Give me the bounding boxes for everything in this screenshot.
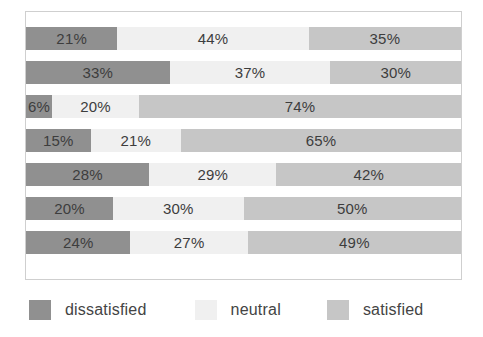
bar-segment-satisfied: 49% [248, 231, 461, 254]
bar-segment-label: 49% [339, 234, 370, 251]
chart-legend: dissatisfiedneutralsatisfied [25, 295, 462, 325]
bar-segment-dissatisfied: 24% [26, 231, 130, 254]
bar-segment-dissatisfied: 6% [26, 95, 52, 118]
bar-segment-label: 42% [353, 166, 384, 183]
bar-row: 15%21%65% [26, 129, 461, 152]
bar-segment-dissatisfied: 21% [26, 27, 117, 50]
bars-area: 21%44%35%33%37%30%6%20%74%15%21%65%28%29… [26, 27, 461, 266]
bar-segment-label: 21% [56, 30, 87, 47]
bar-segment-satisfied: 74% [139, 95, 461, 118]
bar-row: 21%44%35% [26, 27, 461, 50]
bar-segment-label: 20% [80, 98, 111, 115]
legend-item-neutral[interactable]: neutral [195, 300, 281, 320]
bar-segment-satisfied: 35% [309, 27, 461, 50]
bar-segment-label: 50% [337, 200, 368, 217]
legend-label: neutral [231, 301, 281, 319]
legend-label: dissatisfied [65, 301, 147, 319]
bar-segment-label: 65% [306, 132, 337, 149]
bar-segment-label: 6% [28, 98, 50, 115]
bar-segment-label: 29% [197, 166, 228, 183]
legend-item-satisfied[interactable]: satisfied [327, 300, 424, 320]
bar-row: 33%37%30% [26, 61, 461, 84]
bar-row: 20%30%50% [26, 197, 461, 220]
bar-segment-label: 21% [121, 132, 152, 149]
bar-segment-neutral: 20% [52, 95, 139, 118]
legend-label: satisfied [363, 301, 424, 319]
bar-segment-satisfied: 50% [244, 197, 462, 220]
bar-segment-dissatisfied: 33% [26, 61, 170, 84]
bar-segment-dissatisfied: 15% [26, 129, 91, 152]
bar-segment-label: 15% [43, 132, 74, 149]
bar-row: 24%27%49% [26, 231, 461, 254]
bar-segment-neutral: 44% [117, 27, 308, 50]
bar-segment-label: 28% [72, 166, 103, 183]
legend-swatch-satisfied [327, 300, 349, 320]
bar-segment-neutral: 29% [149, 163, 276, 186]
bar-segment-satisfied: 42% [276, 163, 461, 186]
stacked-bar-chart: 21%44%35%33%37%30%6%20%74%15%21%65%28%29… [0, 0, 483, 337]
bar-segment-label: 44% [198, 30, 229, 47]
bar-row: 28%29%42% [26, 163, 461, 186]
bar-segment-label: 24% [63, 234, 94, 251]
bar-segment-neutral: 37% [170, 61, 331, 84]
bar-segment-dissatisfied: 20% [26, 197, 113, 220]
bar-segment-neutral: 21% [91, 129, 181, 152]
bar-segment-label: 35% [370, 30, 401, 47]
legend-item-dissatisfied[interactable]: dissatisfied [29, 300, 147, 320]
bar-segment-label: 33% [82, 64, 113, 81]
legend-swatch-dissatisfied [29, 300, 51, 320]
bar-segment-neutral: 27% [130, 231, 247, 254]
plot-area-frame: 21%44%35%33%37%30%6%20%74%15%21%65%28%29… [25, 11, 462, 280]
bar-segment-label: 30% [380, 64, 411, 81]
bar-segment-satisfied: 65% [181, 129, 461, 152]
legend-swatch-neutral [195, 300, 217, 320]
bar-segment-label: 37% [235, 64, 266, 81]
bar-segment-label: 27% [174, 234, 205, 251]
bar-row: 6%20%74% [26, 95, 461, 118]
bar-segment-label: 74% [285, 98, 316, 115]
bar-segment-satisfied: 30% [330, 61, 461, 84]
bar-segment-label: 20% [54, 200, 85, 217]
bar-segment-dissatisfied: 28% [26, 163, 149, 186]
bar-segment-label: 30% [163, 200, 194, 217]
bar-segment-neutral: 30% [113, 197, 244, 220]
